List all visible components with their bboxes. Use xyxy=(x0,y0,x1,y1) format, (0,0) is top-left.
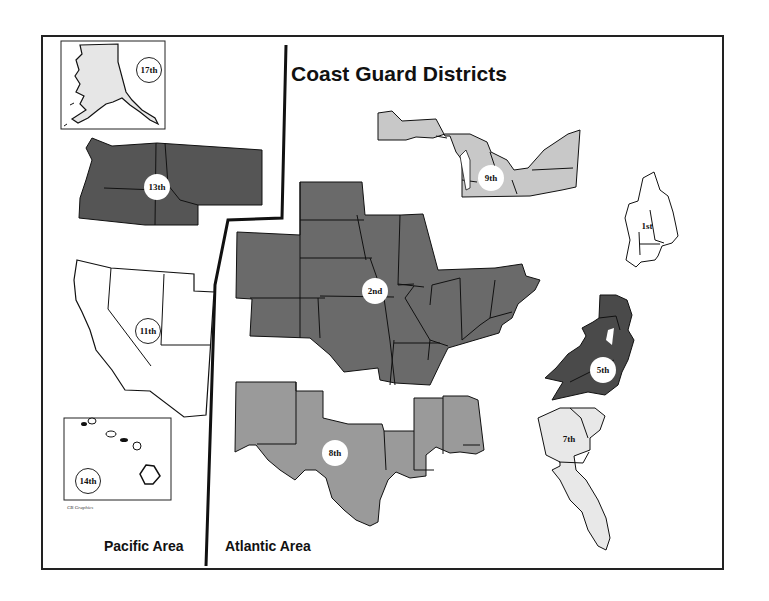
district-badge-8th: 8th xyxy=(322,440,348,466)
district-map xyxy=(0,0,769,601)
district-badge-1st: 1st xyxy=(634,213,660,239)
district-8th[interactable] xyxy=(235,382,484,526)
district-badge-5th: 5th xyxy=(590,357,616,383)
district-badge-11th: 11th xyxy=(135,318,161,344)
district-badge-17th: 17th xyxy=(136,57,162,83)
district-13th[interactable] xyxy=(79,138,262,226)
map-title: Coast Guard Districts xyxy=(291,62,507,86)
graphics-credit: CB Graphics xyxy=(67,505,93,510)
district-badge-13th: 13th xyxy=(144,174,170,200)
district-badge-2nd: 2nd xyxy=(362,278,388,304)
district-5th[interactable] xyxy=(545,295,634,400)
district-badge-14th: 14th xyxy=(75,468,101,494)
pacific-area-label: Pacific Area xyxy=(104,538,184,554)
atlantic-area-label: Atlantic Area xyxy=(225,538,311,554)
district-badge-7th: 7th xyxy=(556,426,582,452)
district-17th[interactable] xyxy=(61,41,165,129)
district-badge-9th: 9th xyxy=(478,165,504,191)
